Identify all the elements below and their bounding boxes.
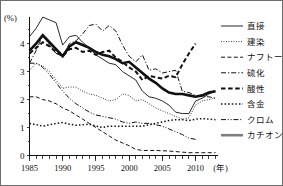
x-tick-label: 2000 — [121, 163, 138, 173]
legend-item-5: 酸性 — [221, 84, 265, 94]
legend-item-3: ナフトール — [221, 52, 283, 62]
series-line-3 — [30, 97, 216, 153]
legend-item-7: クロム — [221, 115, 274, 125]
y-tick-label: 1 — [20, 123, 25, 133]
legend-label-1: 直接 — [247, 21, 265, 31]
plot-area — [30, 17, 216, 153]
x-tick-label: 2005 — [154, 163, 171, 173]
series-line-4 — [30, 24, 216, 98]
y-tick-label: 0 — [20, 151, 25, 161]
x-tick-label: 1995 — [87, 163, 104, 173]
legend-label-3: ナフトール — [247, 52, 283, 62]
x-tick-label: 1985 — [21, 163, 38, 173]
series-line-7 — [30, 63, 196, 139]
x-tick-label: 1990 — [54, 163, 71, 173]
y-axis-unit-label: (%) — [4, 13, 17, 23]
legend-label-8: カチオン — [247, 130, 283, 140]
x-axis-unit-label: (年) — [213, 163, 228, 173]
series-line-1 — [30, 17, 216, 113]
line-chart: 01234(%)198519901995200020052010(年) 直接建染… — [0, 0, 283, 186]
y-tick-label: 2 — [20, 95, 25, 105]
legend-item-4: 硫化 — [221, 68, 265, 78]
legend-label-6: 含金 — [247, 99, 265, 109]
y-tick-label: 3 — [20, 67, 25, 77]
legend-item-1: 直接 — [221, 21, 265, 31]
axes-layer: 01234(%)198519901995200020052010(年) — [4, 13, 228, 173]
legend-label-5: 酸性 — [247, 84, 265, 94]
series-line-8 — [30, 35, 216, 97]
legend-label-4: 硫化 — [247, 68, 265, 78]
x-tick-label: 2010 — [187, 163, 204, 173]
legend-label-7: クロム — [247, 115, 274, 125]
legend-item-8: カチオン — [221, 130, 283, 140]
series-line-6 — [30, 119, 216, 128]
y-tick-label: 4 — [20, 39, 25, 49]
legend: 直接建染ナフトール硫化酸性含金クロムカチオン — [221, 21, 283, 140]
legend-item-6: 含金 — [221, 99, 265, 109]
legend-label-2: 建染 — [247, 37, 265, 47]
chart-container: 01234(%)198519901995200020052010(年) 直接建染… — [0, 0, 283, 186]
legend-item-2: 建染 — [221, 37, 265, 47]
